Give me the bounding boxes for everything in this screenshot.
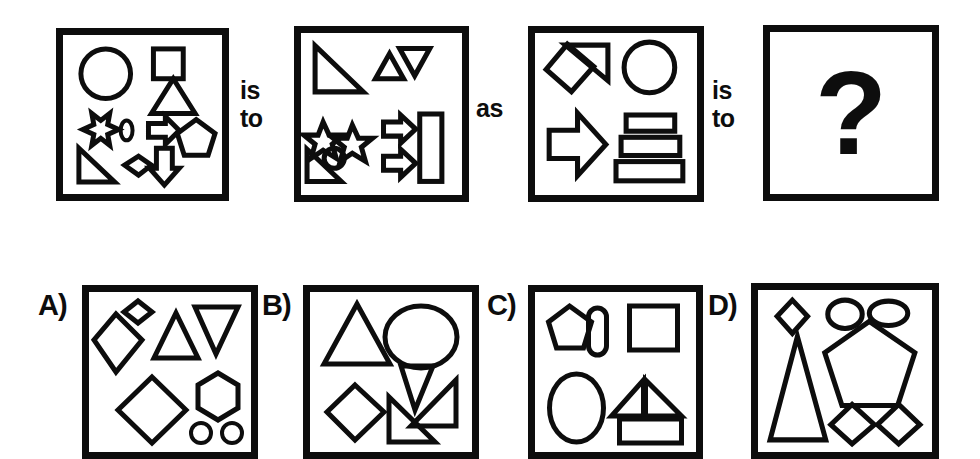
right-arrow-shape-1 [384,115,416,143]
six-point-star-shape [83,114,119,146]
narrow-inverted-triangle-shape [401,366,433,410]
triangle-shape [151,79,195,114]
option-label-b: B) [262,291,291,320]
large-right-triangle-shape [315,46,363,92]
inverted-triangle-shape [400,49,430,76]
vertical-rectangle-shape [420,114,442,181]
rectangle-shape-2 [621,137,680,155]
down-arrow-shape [149,148,179,185]
rounded-rectangle-shape [589,308,607,355]
large-diamond-shape-2 [118,377,186,443]
small-diamond-shape [124,301,152,323]
diamond-shape [327,385,384,440]
five-point-star-shape-2 [333,125,372,161]
right-triangle-shape [646,380,682,416]
option-panel-b[interactable] [303,285,479,459]
right-triangle-shape [79,148,115,182]
option-d-shapes [758,290,932,452]
small-circle-shape-1 [191,423,211,443]
panel-2-shapes [301,33,462,195]
inverted-triangle-shape [195,307,238,354]
option-panel-a[interactable] [82,285,258,459]
analogy-answer-panel[interactable]: ? [763,25,939,201]
rectangle-shape-3 [616,162,683,181]
right-arrow-shape-2 [384,149,416,177]
rectangle-shape [620,419,682,443]
large-pentagon-shape [825,321,915,405]
option-b-shapes [310,292,472,452]
connector-is-to-2: is to [712,76,735,132]
analogy-panel-2[interactable] [294,26,469,202]
small-diamond-shape [777,300,807,333]
question-mark: ? [770,32,932,194]
connector-as: as [476,94,503,122]
right-arrow-shape [549,113,606,176]
circle-shape [624,42,675,93]
square-shape [153,49,183,79]
tall-triangle-shape [770,337,826,440]
triangle-shape [612,380,644,416]
option-label-d: D) [708,291,737,320]
triangle-shape [154,313,198,358]
option-label-a: A) [38,291,67,320]
analogy-panel-3[interactable] [528,26,704,202]
circle-shape [81,49,131,99]
pentagon-shape [549,306,592,348]
pentagon-shape [177,119,215,155]
panel-3-shapes [535,33,697,195]
analogy-puzzle: is to as [0,0,980,459]
option-label-c: C) [487,291,516,320]
option-a-shapes [89,292,251,452]
triangle-shape [324,304,390,364]
small-ellipse-shape-2 [869,301,907,325]
connector-is-to-1: is to [240,76,263,132]
ellipse-shape [385,306,457,368]
small-triangle-shape [375,54,403,79]
small-circle-shape-2 [222,423,242,443]
analogy-panel-1[interactable] [56,28,229,201]
hexagon-shape [198,373,238,420]
diamond-shape-2 [877,404,920,443]
square-shape [630,306,678,350]
small-ellipse-shape-1 [828,300,862,328]
right-arrow-shape [148,116,179,144]
rectangle-shape-1 [626,115,675,131]
panel-1-shapes [63,35,222,194]
option-panel-c[interactable] [528,285,703,459]
ellipse-shape [550,374,604,442]
option-c-shapes [535,292,696,452]
diamond-shape-1 [831,404,875,443]
small-oval-shape [121,120,133,140]
option-panel-d[interactable] [751,283,939,459]
